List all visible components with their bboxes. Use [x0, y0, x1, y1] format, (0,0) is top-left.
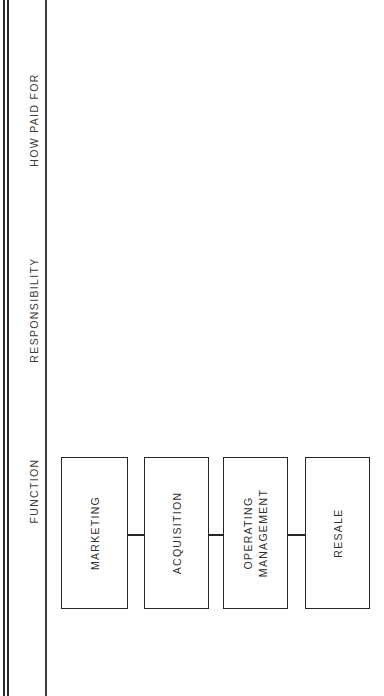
- column-divider-rule: [45, 0, 47, 696]
- flow-node-label-wrap: RESALE: [330, 508, 345, 557]
- connector-acquisition-operating: [208, 534, 224, 536]
- flow-node-operating-management[interactable]: OPERATING MANAGEMENT: [223, 457, 288, 609]
- flow-node-label-operating: OPERATING: [241, 489, 256, 577]
- flow-node-label-wrap: OPERATING MANAGEMENT: [241, 489, 271, 577]
- flow-node-resale[interactable]: RESALE: [305, 457, 370, 609]
- flow-node-acquisition[interactable]: ACQUISITION: [144, 457, 209, 609]
- page-edge-rule-inner: [7, 0, 9, 696]
- flow-node-label-wrap: MARKETING: [87, 496, 102, 570]
- column-header-how-paid-for: HOW PAID FOR: [24, 50, 44, 190]
- column-header-responsibility: RESPONSIBILITY: [24, 240, 44, 380]
- flow-node-label-acquisition: ACQUISITION: [169, 492, 184, 575]
- flow-node-label-resale: RESALE: [330, 508, 345, 557]
- column-header-function: FUNCTION: [24, 421, 44, 561]
- connector-operating-resale: [287, 534, 306, 536]
- flow-node-label-marketing: MARKETING: [87, 496, 102, 570]
- page-edge-rule-outer: [3, 0, 5, 696]
- flow-node-label-management: MANAGEMENT: [256, 489, 271, 577]
- connector-marketing-acquisition: [127, 534, 145, 536]
- flow-node-label-wrap: ACQUISITION: [169, 492, 184, 575]
- flow-node-marketing[interactable]: MARKETING: [61, 457, 128, 609]
- diagram-page: HOW PAID FOR RESPONSIBILITY FUNCTION MAR…: [0, 0, 384, 696]
